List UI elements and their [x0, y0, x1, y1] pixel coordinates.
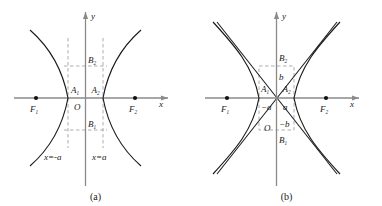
origin-label: O — [264, 123, 271, 133]
y-axis-arrow — [274, 12, 279, 19]
focus-point-f2 — [133, 96, 137, 100]
label-b2: B2 — [88, 55, 97, 66]
label-f1: F1 — [220, 104, 230, 115]
label-f2: F2 — [128, 104, 138, 115]
label-a1: A1 — [70, 85, 80, 96]
focus-point-f1 — [225, 96, 229, 100]
measure-label-neg-b: −b — [279, 119, 290, 129]
panel-a: x y O F1 F2 A1 A2 B2 B1 x=-a x=a (a) — [0, 0, 191, 206]
label-x-equals-neg-a: x=-a — [43, 152, 62, 162]
label-x-equals-a: x=a — [91, 152, 107, 162]
label-f2: F2 — [319, 104, 329, 115]
label-b2: B2 — [279, 53, 288, 64]
label-a1: A1 — [260, 84, 270, 95]
panel-b-diagram: x y O F1 F2 A1 A2 B2 B1 −a a b −b — [191, 0, 382, 206]
panel-a-diagram: x y O F1 F2 A1 A2 B2 B1 x=-a x=a — [0, 0, 191, 206]
y-axis-arrow — [83, 12, 88, 19]
y-axis-label: y — [281, 11, 286, 21]
x-axis-label: x — [349, 99, 354, 109]
focus-point-f1 — [34, 96, 38, 100]
label-f1: F1 — [29, 104, 39, 115]
label-a2: A2 — [91, 85, 101, 96]
caption-panel-b: (b) — [191, 191, 382, 202]
focus-point-f2 — [324, 96, 328, 100]
y-axis-label: y — [90, 11, 95, 21]
origin-label: O — [74, 102, 81, 112]
measure-label-neg-a: −a — [261, 102, 272, 112]
hyperbola-figure: x y O F1 F2 A1 A2 B2 B1 x=-a x=a (a) — [0, 0, 382, 206]
x-axis-label: x — [158, 99, 163, 109]
panel-b: x y O F1 F2 A1 A2 B2 B1 −a a b −b (b) — [191, 0, 382, 206]
label-b1: B1 — [88, 119, 97, 130]
label-b1: B1 — [279, 135, 288, 146]
measure-label-pos-b: b — [279, 72, 284, 82]
caption-panel-a: (a) — [0, 191, 191, 202]
label-a2: A2 — [282, 84, 292, 95]
measure-label-pos-a: a — [283, 102, 288, 112]
